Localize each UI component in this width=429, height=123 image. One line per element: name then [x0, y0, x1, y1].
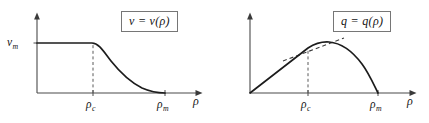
- velocity-plot-svg: [0, 0, 215, 123]
- flux-rho-m-label-sub: m: [376, 104, 382, 113]
- velocity-rho-m-label-sub: m: [163, 104, 169, 113]
- velocity-rho-c-label-sub: c: [92, 104, 95, 113]
- flux-rho-m-label-text: ρ: [370, 98, 376, 110]
- flux-y-axis-arrowhead: [247, 13, 253, 20]
- velocity-formula-box: v = v(ρ): [121, 11, 178, 32]
- velocity-rho-m-label: ρm: [157, 99, 168, 111]
- flux-tangent-line: [283, 38, 344, 61]
- flux-plot-svg: [214, 0, 429, 123]
- velocity-x-axis-label: ρ: [193, 95, 199, 107]
- flux-panel: ρc ρm ρ q = q(ρ): [214, 0, 429, 123]
- traffic-flow-figure: vm ρc ρm ρ v = v(ρ): [0, 0, 429, 123]
- velocity-rho-m-label-text: ρ: [157, 98, 163, 110]
- velocity-y-tick-label-text: v: [7, 36, 12, 48]
- velocity-y-axis-arrowhead: [34, 13, 40, 20]
- velocity-rho-c-label-text: ρ: [86, 98, 92, 110]
- flux-x-axis-label: ρ: [407, 95, 413, 107]
- flux-rho-c-label: ρc: [301, 99, 310, 111]
- velocity-curve: [37, 43, 165, 93]
- velocity-y-tick-label: vm: [7, 37, 18, 49]
- flux-rho-c-label-text: ρ: [301, 98, 307, 110]
- velocity-rho-c-label: ρc: [86, 99, 95, 111]
- velocity-panel: vm ρc ρm ρ v = v(ρ): [0, 0, 215, 123]
- flux-formula-box: q = q(ρ): [333, 11, 391, 32]
- velocity-y-tick-label-sub: m: [13, 42, 19, 51]
- flux-curve: [250, 42, 378, 93]
- flux-rho-c-label-sub: c: [307, 104, 310, 113]
- flux-rho-m-label: ρm: [370, 99, 381, 111]
